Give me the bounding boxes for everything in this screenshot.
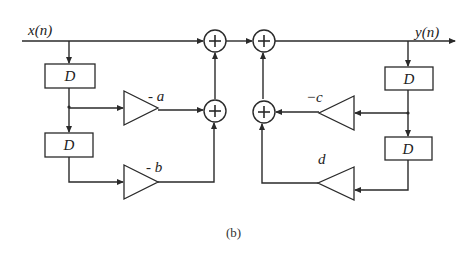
ff-delay-2-label: D <box>63 137 75 153</box>
adder-1 <box>204 30 226 52</box>
gain-b-label: - b <box>146 159 163 175</box>
block-diagram: D - a D - b D −c D d <box>0 0 470 260</box>
delay2-to-gain-b-line <box>69 157 123 182</box>
adder-3 <box>204 100 226 122</box>
gain-c-label: −c <box>306 89 323 105</box>
gain-d-label: d <box>318 151 326 167</box>
input-label: x(n) <box>27 22 52 39</box>
gain-c-triangle <box>319 96 354 130</box>
fb-delay-1-label: D <box>403 71 415 87</box>
output-label: y(n) <box>413 24 439 41</box>
adder-4 <box>253 101 275 123</box>
fb-delay2-to-gain-d-line <box>355 160 408 190</box>
ff-delay-1-label: D <box>64 68 76 84</box>
gain-a-label: - a <box>148 88 164 104</box>
gain-b-to-adder3-line <box>158 123 214 182</box>
adder-2 <box>253 30 275 52</box>
caption: (b) <box>226 225 241 240</box>
gain-d-triangle <box>318 167 354 200</box>
fb-delay-2-label: D <box>402 141 414 157</box>
gain-d-to-adder4-line <box>262 124 318 183</box>
